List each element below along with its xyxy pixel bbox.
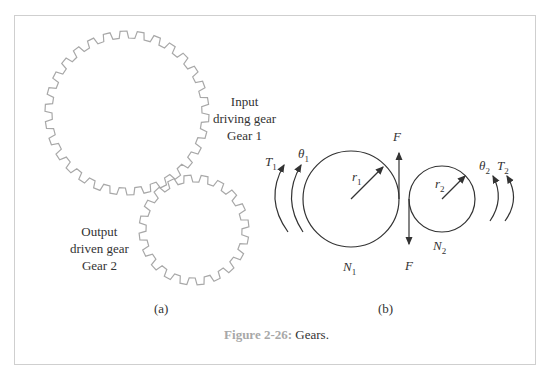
torque1-label: T1 (265, 153, 277, 176)
theta2-arrow (490, 176, 498, 221)
panel-b-label: (b) (378, 300, 393, 317)
caption-text: Gears. (295, 327, 329, 342)
radius2-label: r2 (435, 175, 445, 198)
gear2-label: Output driven gear Gear 2 (70, 223, 129, 274)
caption-number: Figure 2-26: (224, 327, 292, 342)
theta2-label: θ2 (479, 157, 490, 180)
gear1-label: Input driving gear Gear 1 (213, 93, 276, 144)
radius1-label: r1 (352, 168, 362, 191)
panel-a-label: (a) (154, 300, 168, 317)
theta1-arrow (291, 165, 303, 232)
force-top-label: F (393, 128, 401, 145)
teeth2-label: N2 (433, 237, 446, 260)
force-bottom-label: F (405, 257, 413, 274)
figure-caption: Figure 2-26: Gears. (0, 327, 553, 343)
gears-diagram (0, 0, 553, 381)
input-gear-icon (45, 31, 209, 195)
radius2-arrow (442, 176, 465, 199)
torque1-arrow (275, 165, 288, 232)
torque2-arrow (505, 176, 514, 221)
theta1-label: θ1 (298, 145, 309, 168)
output-gear-icon (139, 175, 249, 285)
teeth1-label: N1 (343, 258, 356, 281)
torque2-label: T2 (497, 157, 509, 180)
